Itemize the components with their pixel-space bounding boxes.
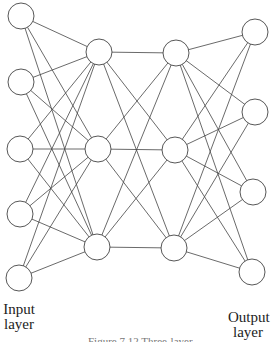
input-layer-label: Input layer xyxy=(0,302,38,332)
output-layer-label: Output layer xyxy=(228,310,268,340)
hidden-1-node-1 xyxy=(86,39,112,65)
connection-line xyxy=(20,149,98,214)
output-label-line2: layer xyxy=(228,325,268,340)
connection-line xyxy=(20,52,99,149)
hidden-2-node-2 xyxy=(162,137,188,163)
hidden-2-node-3 xyxy=(161,235,187,261)
connection-line xyxy=(175,150,252,272)
hidden-2-node-1 xyxy=(163,40,189,66)
connection-line xyxy=(174,112,255,248)
figure-caption: Figure 7.12 Three-layer xyxy=(88,334,193,342)
connection-line xyxy=(176,53,255,112)
hidden-1-node-2 xyxy=(85,136,111,162)
connection-line xyxy=(176,53,252,272)
output-node-2 xyxy=(242,99,268,125)
input-node-2 xyxy=(8,69,34,95)
connection-line xyxy=(174,32,255,248)
output-node-1 xyxy=(242,19,268,45)
connection-line xyxy=(97,150,175,247)
hidden-1-node-3 xyxy=(84,234,110,260)
connection-lines xyxy=(19,16,255,278)
output-node-4 xyxy=(239,259,265,285)
connection-line xyxy=(98,53,176,149)
input-node-3 xyxy=(7,136,33,162)
input-node-5 xyxy=(6,265,32,291)
input-node-1 xyxy=(8,3,34,29)
input-label-line1: Input xyxy=(0,302,38,317)
input-node-4 xyxy=(7,201,33,227)
output-node-3 xyxy=(240,179,266,205)
connection-line xyxy=(21,82,98,149)
input-label-line2: layer xyxy=(0,317,38,332)
output-label-line1: Output xyxy=(228,310,268,325)
neural-network-diagram xyxy=(0,0,275,342)
